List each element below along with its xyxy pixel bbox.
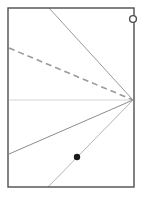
diagram-svg — [0, 0, 144, 201]
point-marker-filled — [74, 154, 80, 160]
diagram-canvas — [0, 0, 144, 201]
point-marker-open — [130, 16, 137, 23]
